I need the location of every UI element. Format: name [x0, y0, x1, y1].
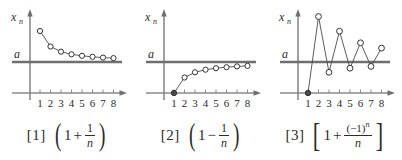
panel-2-plot: x n a 1 2 3 4 5 6 7 8 — [134, 0, 268, 112]
y-axis-label-base: x — [278, 10, 285, 24]
x-tick-label-2: 2 — [316, 97, 322, 109]
panel-2-index: [2] — [161, 127, 180, 144]
panel-1-fraction: 1 n — [85, 122, 95, 149]
panel-3-marker-filled — [305, 90, 310, 95]
panel-2-lead-term: 1 — [198, 127, 206, 144]
y-axis-label-sub: n — [153, 17, 157, 26]
x-tick-label-4: 4 — [69, 97, 75, 109]
x-tick-label-4: 4 — [203, 97, 209, 109]
sequence-convergence-figure: x n a 1 2 3 4 5 6 7 8 [1] — [0, 0, 402, 160]
paren-close: ) — [233, 122, 239, 147]
panel-3-svg: x n a 1 2 3 4 5 6 7 8 — [268, 0, 402, 112]
x-tick-labels: 1 2 3 4 5 6 7 8 — [37, 97, 117, 109]
panel-1-numerator: 1 — [85, 122, 95, 135]
x-tick-label-7: 7 — [368, 97, 374, 109]
paren-close: ) — [99, 122, 105, 147]
y-axis — [161, 9, 166, 100]
panel-2-denominator: n — [219, 136, 229, 149]
x-tick-label-8: 8 — [379, 97, 385, 109]
panel-1-operator: + — [74, 127, 82, 144]
paren-open: ( — [189, 122, 195, 147]
panel-3-plot: x n a 1 2 3 4 5 6 7 8 — [268, 0, 402, 112]
x-tick-label-3: 3 — [58, 97, 64, 109]
x-tick-label-2: 2 — [48, 97, 54, 109]
x-tick-label-1: 1 — [37, 97, 43, 109]
y-axis-label-base: x — [10, 10, 17, 24]
x-tick-label-1: 1 — [171, 97, 177, 109]
x-tick-label-1: 1 — [305, 97, 311, 109]
x-tick-label-8: 8 — [111, 97, 117, 109]
panel-1: x n a 1 2 3 4 5 6 7 8 [1] — [0, 0, 134, 160]
y-axis-label: x n — [278, 10, 291, 26]
panel-3-formula: [ 1 + (−1)n n ] — [311, 121, 384, 149]
x-tick-label-3: 3 — [326, 97, 332, 109]
y-axis — [295, 9, 300, 100]
panel-2-markers — [171, 63, 250, 95]
panel-3-num-value: −1 — [350, 122, 362, 134]
y-axis-label: x n — [10, 10, 23, 26]
x-tick-label-7: 7 — [100, 97, 106, 109]
y-axis-label-sub: n — [19, 17, 23, 26]
x-tick-label-6: 6 — [358, 97, 364, 109]
panel-3-numerator: (−1)n — [344, 121, 371, 135]
panel-2-formula-body: 1 − 1 n — [197, 122, 231, 149]
x-tick-label-7: 7 — [234, 97, 240, 109]
limit-label: a — [14, 47, 20, 61]
panel-2: x n a 1 2 3 4 5 6 7 8 [2] ( — [134, 0, 268, 160]
panel-1-svg: x n a 1 2 3 4 5 6 7 8 — [0, 0, 134, 112]
x-tick-label-5: 5 — [79, 97, 85, 109]
panel-1-plot: x n a 1 2 3 4 5 6 7 8 — [0, 0, 134, 112]
panel-3-series-line — [308, 17, 382, 94]
x-tick-label-6: 6 — [224, 97, 230, 109]
x-tick-label-8: 8 — [245, 97, 251, 109]
panel-2-fraction: 1 n — [219, 122, 229, 149]
panel-1-caption: [1] ( 1 + 1 n ) — [0, 110, 134, 160]
panel-1-formula: ( 1 + 1 n ) — [53, 122, 108, 149]
x-tick-label-5: 5 — [347, 97, 353, 109]
panel-1-lead-term: 1 — [64, 127, 72, 144]
panel-1-formula-body: 1 + 1 n — [63, 122, 97, 149]
panel-2-operator: − — [208, 127, 216, 144]
limit-label: a — [282, 47, 288, 61]
panel-1-markers — [37, 28, 116, 60]
y-axis-label-base: x — [144, 10, 151, 24]
panel-3-index: [3] — [285, 127, 304, 144]
panel-3-caption: [3] [ 1 + (−1)n n ] — [268, 110, 402, 160]
x-tick-label-3: 3 — [192, 97, 198, 109]
panel-2-numerator: 1 — [219, 122, 229, 135]
panel-3-operator: + — [333, 127, 341, 144]
x-tick-label-2: 2 — [182, 97, 188, 109]
panel-2-marker-filled — [171, 90, 176, 95]
panel-1-denominator: n — [85, 136, 95, 149]
panel-3-denominator: n — [353, 136, 363, 149]
panel-3-num-exponent: n — [366, 120, 370, 129]
panel-1-index: [1] — [27, 127, 46, 144]
panel-2-caption: [2] ( 1 − 1 n ) — [134, 110, 268, 160]
panel-3-lead-term: 1 — [323, 127, 331, 144]
y-axis-label-sub: n — [287, 17, 291, 26]
paren-open: ( — [55, 122, 61, 147]
panel-3: x n a 1 2 3 4 5 6 7 8 [3] [ — [268, 0, 402, 160]
limit-label: a — [148, 47, 154, 61]
bracket-close: ] — [375, 122, 382, 148]
y-axis — [27, 9, 32, 100]
bracket-open: [ — [313, 122, 320, 148]
x-tick-labels: 1 2 3 4 5 6 7 8 — [305, 97, 385, 109]
y-axis-label: x n — [144, 10, 157, 26]
panel-2-svg: x n a 1 2 3 4 5 6 7 8 — [134, 0, 268, 112]
panel-3-formula-body: 1 + (−1)n n — [322, 121, 373, 149]
panel-2-formula: ( 1 − 1 n ) — [187, 122, 242, 149]
x-tick-label-4: 4 — [337, 97, 343, 109]
x-tick-label-5: 5 — [213, 97, 219, 109]
panel-3-fraction: (−1)n n — [344, 121, 371, 149]
x-tick-labels: 1 2 3 4 5 6 7 8 — [171, 97, 251, 109]
x-tick-label-6: 6 — [90, 97, 96, 109]
